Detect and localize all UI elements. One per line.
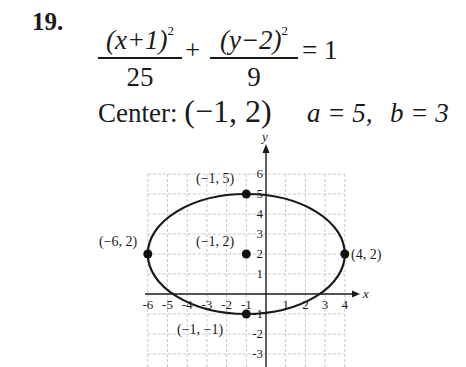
svg-text:(−1, 5): (−1, 5) xyxy=(196,171,235,187)
svg-text:(−1, −1): (−1, −1) xyxy=(177,322,223,338)
ellipse-graph: x y -6 -5 -4 -3 -2 -1 1 2 3 4 -3 -2 -1 1… xyxy=(0,0,466,367)
svg-text:-2: -2 xyxy=(252,326,263,341)
svg-text:4: 4 xyxy=(257,206,264,221)
x-axis-label: x xyxy=(362,286,369,301)
point-bottom-vertex xyxy=(242,310,251,319)
point-right-vertex xyxy=(340,250,349,259)
x-axis-arrow-icon xyxy=(352,291,360,298)
svg-text:(−1, 2): (−1, 2) xyxy=(196,234,235,250)
point-left-vertex xyxy=(143,250,152,259)
y-axis-arrow-icon xyxy=(263,144,270,153)
svg-text:-3: -3 xyxy=(252,346,263,361)
svg-text:3: 3 xyxy=(257,226,264,241)
svg-text:2: 2 xyxy=(302,297,309,312)
svg-text:-6: -6 xyxy=(142,297,153,312)
svg-text:3: 3 xyxy=(322,297,329,312)
y-axis-label: y xyxy=(260,129,268,144)
svg-text:1: 1 xyxy=(257,266,264,281)
grid-lines xyxy=(148,174,345,367)
svg-text:-2: -2 xyxy=(221,297,232,312)
svg-text:(−6, 2): (−6, 2) xyxy=(99,234,138,250)
svg-text:4: 4 xyxy=(342,297,349,312)
point-center xyxy=(242,250,251,259)
point-top-vertex xyxy=(242,190,251,199)
svg-text:-5: -5 xyxy=(162,297,173,312)
svg-text:(4, 2): (4, 2) xyxy=(351,247,382,263)
svg-text:6: 6 xyxy=(257,166,264,181)
svg-text:2: 2 xyxy=(257,246,264,261)
